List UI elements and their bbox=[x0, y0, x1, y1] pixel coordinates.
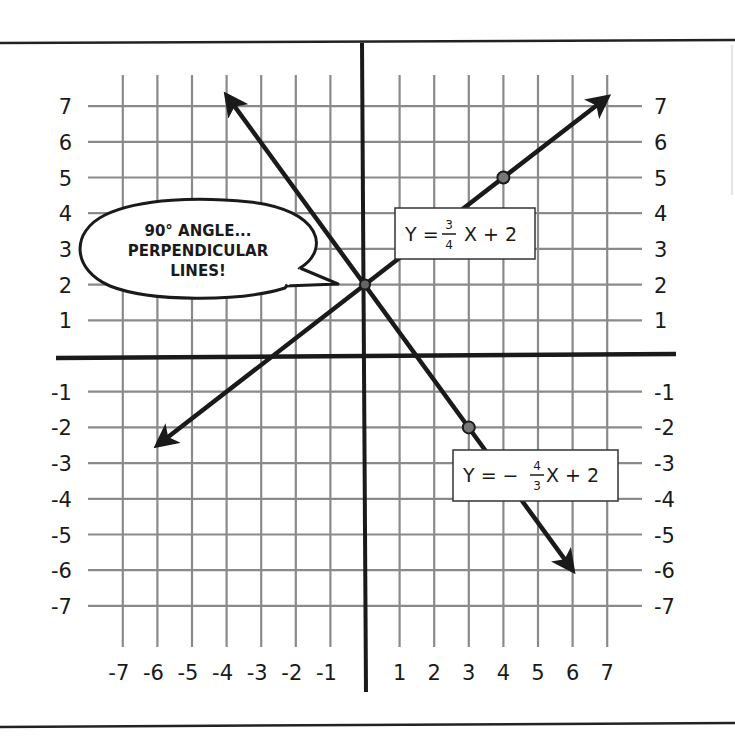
y-tick-label-right: 3 bbox=[654, 238, 667, 262]
x-tick-label: 6 bbox=[566, 661, 579, 685]
y-tick-label-left: -3 bbox=[51, 452, 72, 476]
y-tick-label-right: 2 bbox=[654, 274, 667, 298]
y-tick-label-left: 2 bbox=[59, 274, 72, 298]
y-tick-label-right: -4 bbox=[654, 488, 675, 512]
top-border bbox=[0, 40, 735, 43]
y-tick-label-left: -5 bbox=[51, 524, 72, 548]
y-tick-label-left: 3 bbox=[59, 238, 72, 262]
y-tick-label-right: 4 bbox=[654, 202, 667, 226]
x-tick-label: 4 bbox=[497, 661, 510, 685]
eq1-denominator: 4 bbox=[445, 238, 453, 252]
y-tick-label-right: 7 bbox=[654, 95, 667, 119]
y-tick-label-left: -6 bbox=[51, 559, 72, 583]
x-tick-label: 3 bbox=[462, 661, 475, 685]
eq2-rhs: X + 2 bbox=[546, 464, 599, 486]
x-tick-label: 1 bbox=[393, 661, 406, 685]
y-tick-label-right: -1 bbox=[654, 381, 675, 405]
axes bbox=[56, 43, 676, 692]
y-tick-label-right: -3 bbox=[654, 452, 675, 476]
x-tick-label: 5 bbox=[531, 661, 544, 685]
y-tick-label-left: 5 bbox=[59, 167, 72, 191]
y-tick-label-right: -7 bbox=[654, 595, 675, 619]
x-tick-label: -4 bbox=[212, 661, 233, 685]
y-tick-label-right: -5 bbox=[654, 524, 675, 548]
x-tick-label: 2 bbox=[428, 661, 441, 685]
y-tick-label-left: 7 bbox=[59, 95, 72, 119]
y-axis bbox=[362, 43, 366, 692]
y-tick-label-right: 5 bbox=[654, 167, 667, 191]
y-tick-label-left: 1 bbox=[59, 309, 72, 333]
x-tick-label: -6 bbox=[143, 661, 164, 685]
y-tick-label-left: -1 bbox=[51, 381, 72, 405]
bottom-border bbox=[0, 723, 735, 727]
x-tick-label: -1 bbox=[316, 661, 337, 685]
eq1-lhs: Y = bbox=[404, 223, 439, 245]
x-tick-label: -2 bbox=[281, 661, 302, 685]
eq1-numerator: 3 bbox=[445, 218, 453, 232]
eq2-lhs: Y = − bbox=[462, 464, 519, 486]
data-point bbox=[463, 421, 475, 433]
y-tick-label-right: -2 bbox=[654, 416, 675, 440]
intersection-point bbox=[360, 280, 370, 290]
y-tick-label-left: -2 bbox=[51, 416, 72, 440]
y-tick-label-right: 1 bbox=[654, 309, 667, 333]
coordinate-plane-chart: -7-6-5-4-3-2-1123456777665544332211-1-1-… bbox=[0, 0, 735, 742]
y-tick-label-right: -6 bbox=[654, 559, 675, 583]
x-axis bbox=[56, 354, 676, 358]
eq2-denominator: 3 bbox=[533, 479, 541, 493]
equation-box-2: Y = − 4 3 X + 2 bbox=[453, 450, 618, 501]
data-point bbox=[497, 172, 509, 184]
callout-line-3: LINES! bbox=[170, 262, 226, 280]
equation-box-1: Y = 3 4 X + 2 bbox=[395, 208, 535, 259]
x-tick-label: -5 bbox=[178, 661, 199, 685]
eq2-numerator: 4 bbox=[533, 459, 541, 473]
eq1-rhs: X + 2 bbox=[464, 223, 517, 245]
y-tick-label-left: 6 bbox=[59, 131, 72, 155]
y-tick-label-left: 4 bbox=[59, 202, 72, 226]
callout-line-1: 90° ANGLE... bbox=[145, 222, 252, 240]
callout-line-2: PERPENDICULAR bbox=[128, 242, 269, 260]
x-tick-label: 7 bbox=[601, 661, 614, 685]
x-tick-label: -3 bbox=[247, 661, 268, 685]
y-tick-label-left: -4 bbox=[51, 488, 72, 512]
y-tick-label-left: -7 bbox=[51, 595, 72, 619]
y-tick-label-right: 6 bbox=[654, 131, 667, 155]
x-tick-label: -7 bbox=[108, 661, 129, 685]
